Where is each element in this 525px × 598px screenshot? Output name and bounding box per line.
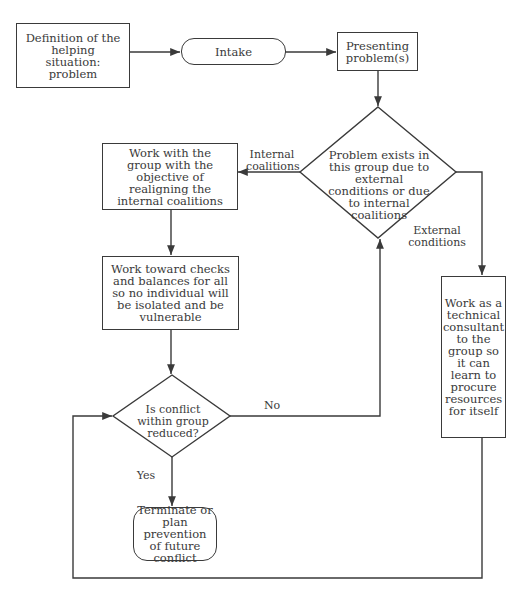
node-presenting: Presenting problem(s) (337, 32, 418, 71)
node-checks-label: Work toward checks and balances for all … (109, 263, 232, 323)
node-terminate: Terminate or plan prevention of future c… (133, 507, 217, 561)
node-intake-label: Intake (215, 46, 252, 58)
node-definition-label: Definition of the helping situation: pro… (25, 32, 121, 80)
node-decision-reduced-label: Is conflict within group reduced? (128, 404, 218, 440)
node-intake: Intake (181, 38, 286, 65)
node-definition: Definition of the helping situation: pro… (16, 23, 130, 88)
node-realign-label: Work with the group with the objective o… (113, 147, 227, 207)
label-internal-coalitions: Internal coalitions (246, 149, 298, 173)
node-presenting-label: Presenting problem(s) (346, 40, 409, 64)
edge-no (230, 239, 380, 416)
label-yes: Yes (134, 470, 158, 482)
node-consultant-label: Work as a technical consultant to the gr… (443, 297, 504, 417)
node-consultant: Work as a technical consultant to the gr… (441, 276, 506, 438)
label-no: No (262, 400, 282, 412)
node-checks: Work toward checks and balances for all … (102, 256, 239, 330)
node-realign: Work with the group with the objective o… (102, 143, 238, 210)
node-decision-cause-label: Problem exists in this group due to exte… (326, 149, 432, 221)
label-external-conditions: External conditions (407, 225, 467, 249)
node-terminate-label: Terminate or plan prevention of future c… (137, 504, 213, 564)
